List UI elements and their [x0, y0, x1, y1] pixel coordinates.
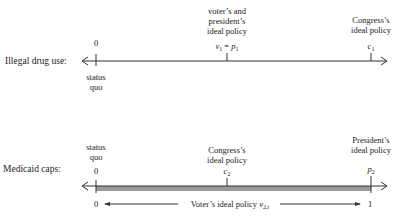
status-quo-value: 0: [91, 166, 101, 176]
status-quo-label: status quo: [76, 72, 116, 92]
range-right-value: 1: [365, 199, 375, 209]
status-quo-value: 0: [91, 38, 101, 48]
president-symbol: p2: [361, 164, 381, 177]
congress-ideal-label: Congress’s ideal policy: [197, 145, 257, 165]
range-left-value: 0: [91, 199, 101, 209]
row-label-illegal-drug-use: Illegal drug use:: [5, 56, 67, 67]
president-ideal-label: President’s ideal policy: [343, 135, 395, 155]
voter-president-ideal-label: voter’s and president’s ideal policy: [192, 6, 262, 36]
voter-president-symbol: v1 = p1: [202, 41, 252, 54]
status-quo-label: status quo: [76, 142, 116, 162]
top-number-line: [82, 53, 387, 66]
congress-ideal-label: Congress’s ideal policy: [343, 15, 395, 35]
congress-symbol: c1: [361, 41, 381, 54]
row-label-medicaid-caps: Medicaid caps:: [3, 164, 61, 175]
congress-symbol: c2: [217, 166, 237, 179]
voter-range-label: Voter’s ideal policy v2,t: [184, 199, 276, 212]
